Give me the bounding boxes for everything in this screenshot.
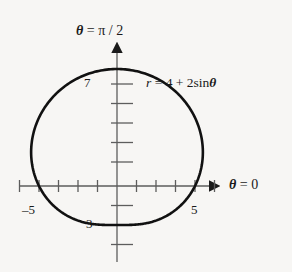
tick-label-bottom: 3 bbox=[86, 217, 93, 230]
tick-label-right: 5 bbox=[191, 203, 198, 216]
equation-coefficient: 2 bbox=[187, 75, 194, 90]
horizontal-axis-label-value: 0 bbox=[251, 177, 258, 192]
equation-function: sin bbox=[194, 75, 210, 90]
equation-variable: θ bbox=[209, 75, 216, 90]
vertical-axis-label: θ = π / 2 bbox=[76, 24, 123, 38]
horizontal-axis-label-equals: = bbox=[236, 177, 251, 192]
equation-equals: = bbox=[151, 75, 165, 90]
vertical-axis-label-value: π / 2 bbox=[98, 23, 123, 38]
horizontal-axis-label: θ = 0 bbox=[229, 178, 258, 192]
equation-annotation: r = 4 + 2sinθ bbox=[146, 76, 216, 90]
plot-canvas bbox=[0, 0, 292, 272]
tick-label-top: 7 bbox=[84, 76, 91, 89]
equation-plus: + bbox=[172, 75, 186, 90]
tick-label-left: –5 bbox=[22, 203, 35, 216]
vertical-axis-ticks bbox=[111, 84, 133, 245]
vertical-axis-label-equals: = bbox=[83, 23, 98, 38]
polar-plot-figure: θ = π / 2 θ = 0 r = 4 + 2sinθ 7 3 –5 5 bbox=[0, 0, 292, 272]
